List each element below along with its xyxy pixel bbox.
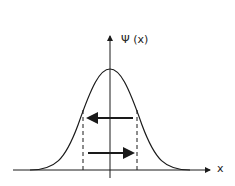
x-axis-label: x	[217, 162, 224, 175]
y-axis-label: Ψ (x)	[121, 33, 148, 46]
gaussian-diagram	[0, 0, 235, 186]
